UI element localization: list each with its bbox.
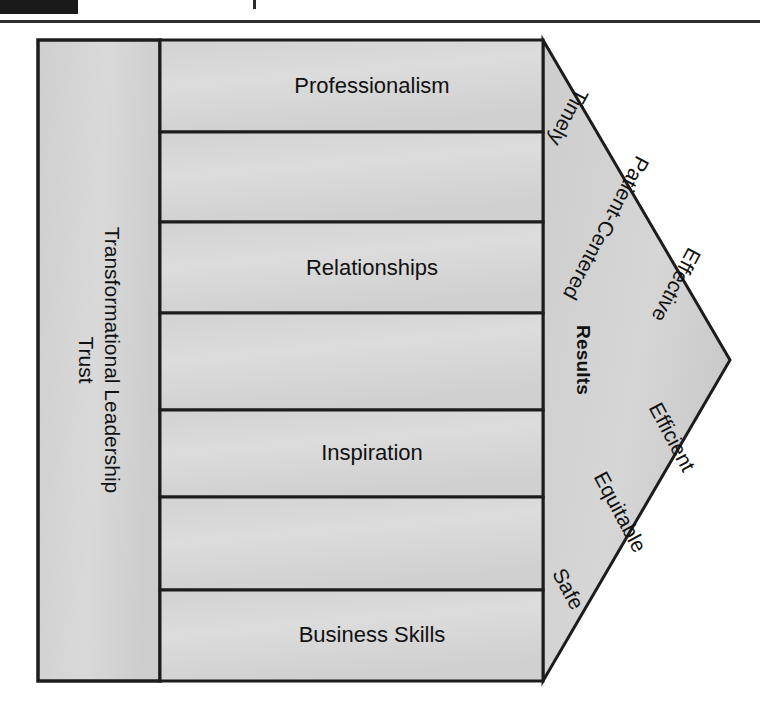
diagram-page: Transformational Leadership Trust Profes… — [0, 0, 760, 713]
left-column-line-1: Transformational — [101, 227, 124, 384]
band-label-relationships: Relationships — [306, 255, 438, 281]
results-label: Results — [572, 325, 594, 395]
left-column-label: Transformational Leadership Trust — [73, 227, 124, 494]
band-label-business-skills: Business Skills — [299, 622, 446, 648]
left-column-line-2: Leadership — [101, 389, 124, 493]
left-column-line-3: Trust — [75, 336, 98, 383]
band-label-inspiration: Inspiration — [321, 440, 423, 466]
band-label-professionalism: Professionalism — [294, 73, 449, 99]
center-band-stack — [160, 40, 543, 681]
